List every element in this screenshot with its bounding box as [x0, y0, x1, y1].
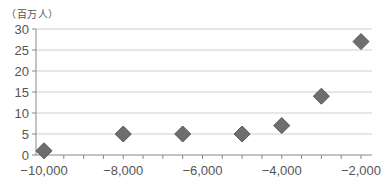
y-tick-label: 15 [15, 85, 29, 100]
y-tick-label: 20 [15, 64, 29, 79]
x-tick-label: −10,000 [20, 163, 67, 178]
data-point-diamond [313, 88, 329, 104]
x-tick-label: −4,000 [262, 163, 302, 178]
y-tick-label: 25 [15, 43, 29, 58]
data-point-diamond [175, 126, 191, 142]
data-point-diamond [274, 118, 290, 134]
y-tick-label: 30 [15, 22, 29, 37]
data-point-diamond [234, 126, 250, 142]
plot-area: 051015202530−10,000−8,000−6,000−4,000−2,… [0, 0, 388, 189]
x-tick-label: −6,000 [182, 163, 222, 178]
x-tick-label: −2,000 [341, 163, 381, 178]
y-tick-label: 0 [22, 148, 29, 163]
y-tick-label: 10 [15, 106, 29, 121]
data-point-diamond [353, 34, 369, 50]
data-point-diamond [36, 143, 52, 159]
data-point-diamond [115, 126, 131, 142]
x-tick-label: −8,000 [103, 163, 143, 178]
y-tick-label: 5 [22, 127, 29, 142]
y-axis-unit-label: （百万人） [6, 6, 59, 21]
scatter-chart: （百万人） 051015202530−10,000−8,000−6,000−4,… [0, 0, 388, 189]
